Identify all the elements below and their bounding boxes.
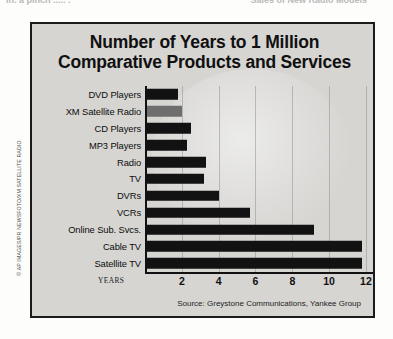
bar-track [145,120,375,137]
bar-track [145,170,375,187]
bar-track [145,103,375,120]
chart-source: Source: Greystone Communications, Yankee… [177,299,361,308]
chart-title-line-1: Number of Years to 1 Million [32,32,375,52]
x-axis-tick-label: 10 [323,275,335,287]
bar-track [145,238,375,255]
bar-category-label: DVRs [32,190,145,201]
x-axis-title: YEARS [98,276,124,285]
bar-row: DVRs [32,187,375,204]
bar-track [145,187,375,204]
photo-credit: © AP IMAGES/PR NEWSFOTO/XM SATELLITE RAD… [16,133,22,283]
bar [145,241,362,252]
top-header-right: Sales of New Radio Models [250,0,367,5]
chart-title-line-2: Comparative Products and Services [32,52,375,72]
y-axis-line [145,86,147,274]
bar [145,140,187,151]
bar-row: DVD Players [32,86,375,103]
bar-category-label: VCRs [32,207,145,218]
bar-row: Radio [32,154,375,171]
bar [145,191,219,202]
bar [145,89,178,100]
bar-category-label: MP3 Players [32,140,145,151]
page-top-headers: in. a pinch ..... . Sales of New Radio M… [0,0,393,12]
bar-row: Satellite TV [32,255,375,272]
bar-category-label: Radio [32,157,145,168]
x-axis-tick-label: 6 [253,275,259,287]
bar [145,123,191,134]
plot-area: DVD PlayersXM Satellite RadioCD PlayersM… [32,86,375,282]
bar-category-label: Online Sub. Svcs. [32,224,145,235]
bar-category-label: CD Players [32,123,145,134]
bar-category-label: XM Satellite Radio [32,106,145,117]
bar-row: XM Satellite Radio [32,103,375,120]
bar-category-label: Cable TV [32,241,145,252]
bar-track [145,137,375,154]
bar-track [145,86,375,103]
bar-category-label: Satellite TV [32,258,145,269]
x-axis-tick-label: 8 [289,275,295,287]
bar-row: Cable TV [32,238,375,255]
chart-title: Number of Years to 1 Million Comparative… [32,32,375,72]
bar [145,258,362,269]
x-axis-tick-label: 4 [216,275,222,287]
bar-rows: DVD PlayersXM Satellite RadioCD PlayersM… [32,86,375,272]
bar-category-label: DVD Players [32,89,145,100]
bar-row: MP3 Players [32,137,375,154]
bar-row: TV [32,170,375,187]
screenshot-root: in. a pinch ..... . Sales of New Radio M… [0,0,393,339]
bar [145,207,250,218]
bar-row: CD Players [32,120,375,137]
chart-panel: Number of Years to 1 Million Comparative… [30,22,375,318]
bar-track [145,255,375,272]
bar-track [145,221,375,238]
top-header-left: in. a pinch ..... . [6,0,71,5]
x-axis-line [145,272,375,274]
bar [145,224,314,235]
bar [145,174,204,185]
bar-category-label: TV [32,173,145,184]
bar [145,157,206,168]
bar-row: VCRs [32,204,375,221]
bar-track [145,204,375,221]
x-axis-tick-label: 12 [360,275,372,287]
bar-row: Online Sub. Svcs. [32,221,375,238]
bar [145,106,182,117]
x-axis-tick-label: 2 [179,275,185,287]
bar-track [145,154,375,171]
x-axis-ticks: 24681012 [145,275,375,291]
